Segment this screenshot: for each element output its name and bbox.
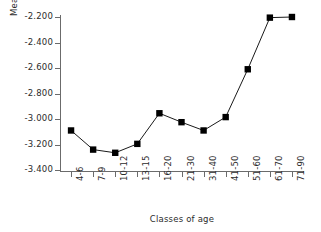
data-point-marker [289,14,295,20]
series-line [71,17,292,153]
chart-figure: -2.200-2.400-2.600-2.800-3.000-3.200-3.4… [0,0,321,232]
data-point-marker [178,119,184,125]
data-point-marker [222,114,228,120]
data-point-marker [156,110,162,116]
data-point-marker [90,146,96,152]
data-series-layer [0,0,321,232]
data-point-marker [245,66,251,72]
data-point-marker [200,127,206,133]
data-point-marker [112,150,118,156]
data-point-marker [68,127,74,133]
data-point-marker [134,141,140,147]
series-markers [68,14,295,156]
data-point-marker [267,14,273,20]
